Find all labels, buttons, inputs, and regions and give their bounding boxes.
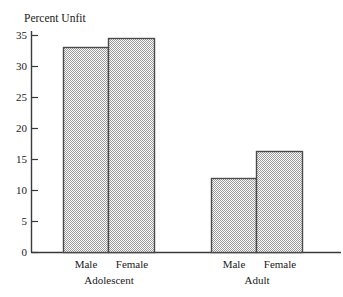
x-axis-category-labels: Male Female Male Female [75,258,297,270]
x-label-adolescent-male: Male [75,258,98,270]
x-axis-group-labels: Adolescent Adult [84,274,269,286]
bar-adult-female [257,152,303,253]
y-tick-label-35: 35 [16,29,28,41]
y-tick-label-10: 10 [16,184,28,196]
bar-adolescent-male [64,48,109,253]
y-axis-ticks [32,36,39,253]
y-tick-label-15: 15 [16,153,28,165]
y-tick-label-20: 20 [16,122,28,134]
bar-adolescent-female [109,39,155,253]
y-tick-label-30: 30 [16,60,28,72]
group-label-adult: Adult [244,274,269,286]
y-axis-tick-labels: 35 30 25 20 15 10 5 0 [16,29,28,258]
bar-group-adolescent [64,39,155,253]
x-label-adult-female: Female [264,258,296,270]
bar-adult-male [212,179,257,253]
x-label-adult-male: Male [223,258,246,270]
bar-group-adult [212,152,303,253]
y-tick-label-25: 25 [16,91,28,103]
y-tick-label-5: 5 [22,215,28,227]
y-tick-label-0: 0 [22,246,28,258]
group-label-adolescent: Adolescent [84,274,133,286]
x-label-adolescent-female: Female [116,258,148,270]
chart-title: Percent Unfit [24,12,86,24]
bar-chart-percent-unfit: Percent Unfit 35 30 25 20 15 10 5 0 [0,0,343,297]
chart-canvas: Percent Unfit 35 30 25 20 15 10 5 0 [0,0,343,297]
